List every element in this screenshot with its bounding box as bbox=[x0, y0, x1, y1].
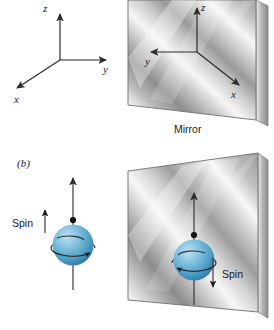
panel-a-mirror: z y x Mirror bbox=[128, 0, 268, 135]
mirror-caption: Mirror bbox=[174, 123, 202, 135]
image-axis-y-label: y bbox=[144, 55, 150, 67]
image-axis-x-label: x bbox=[230, 88, 236, 100]
mirror-a-edge bbox=[256, 0, 268, 126]
object-spin-label: Spin bbox=[12, 217, 33, 229]
image-pole-dot bbox=[191, 232, 197, 238]
axis-y-label: y bbox=[102, 63, 108, 75]
physics-figure: z y x z y x Mirror (b) bbox=[0, 0, 274, 330]
image-axis-z-label: z bbox=[200, 1, 206, 13]
image-sphere bbox=[174, 240, 215, 281]
panel-a-object-axes: z y x bbox=[13, 2, 108, 105]
panel-b-label: (b) bbox=[17, 157, 30, 170]
panel-b-object: Spin bbox=[12, 178, 95, 290]
object-sphere bbox=[53, 225, 94, 266]
image-spin-label: Spin bbox=[222, 268, 243, 280]
axis-z-label: z bbox=[42, 2, 48, 14]
figure-canvas: z y x z y x Mirror (b) bbox=[0, 0, 274, 330]
axis-x-line bbox=[17, 60, 60, 88]
mirror-b-edge bbox=[258, 153, 268, 318]
object-pole-dot bbox=[70, 217, 76, 223]
axis-x-label: x bbox=[13, 93, 19, 105]
panel-b-mirror: Spin bbox=[128, 153, 268, 318]
